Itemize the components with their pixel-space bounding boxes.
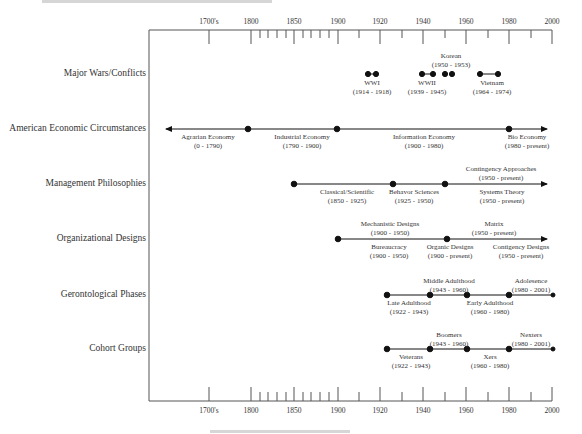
period-label-mechanistic: Mechanistic Designs(1900 - 1950)	[361, 220, 420, 237]
period-label-behavior: Behavor Sciences(1925 - 1950)	[389, 188, 439, 205]
period-label-systems: Systems Theory(1950 - present)	[479, 188, 524, 205]
cohort-label-nexters: Nexters(1980 - 2001)	[512, 331, 551, 348]
phase-label-early: Early Adulthood(1960 - 1980)	[467, 299, 513, 316]
top-axis-ticks	[209, 30, 552, 44]
axis-tick-label: 1920	[373, 17, 388, 26]
axis-tick-label: 1800	[244, 17, 259, 26]
axis-tick-label: 1960	[459, 406, 474, 415]
cohort-label-xers: Xers(1960 - 1980)	[471, 353, 510, 370]
axis-tick-label: 1980	[502, 17, 517, 26]
economy-row	[166, 126, 547, 132]
axis-tick-label: 1980	[502, 406, 517, 415]
event-label-vietnam: Vietnam(1964 - 1974)	[473, 79, 512, 96]
bottom-axis-ticks	[209, 387, 552, 401]
phase-label-late: Late Adulthood(1922 - 1943)	[387, 299, 431, 316]
axis-tick-label: 1900	[331, 17, 346, 26]
row-label-wars: Major Wars/Conflicts	[64, 68, 146, 78]
period-label-organic: Organic Designs(1900 - present)	[427, 243, 474, 260]
axis-tick-label: 1850	[287, 17, 302, 26]
axis-tick-label: 1940	[416, 406, 431, 415]
row-label-gerontological: Gerontological Phases	[61, 289, 146, 299]
cohort-label-veterans: Veterans(1922 - 1943)	[392, 353, 431, 370]
axis-tick-label: 1900	[331, 406, 346, 415]
org-designs-row	[335, 236, 547, 242]
timeline-diagram: 1700's18001850190019201940196019802000 1…	[0, 0, 582, 434]
row-label-cohort: Cohort Groups	[89, 343, 146, 353]
axis-tick-label: 1960	[459, 17, 474, 26]
management-row	[291, 181, 547, 187]
axis-tick-label: 2000	[545, 406, 560, 415]
event-label-korean: Korean(1950 - 1953)	[432, 52, 471, 69]
axis-tick-label: 2000	[545, 17, 560, 26]
axis-tick-label: 1800	[244, 406, 259, 415]
axis-tick-label: 1850	[287, 406, 302, 415]
row-label-economy: American Economic Circumstances	[9, 123, 146, 133]
period-label-bureaucracy: Bureaucracy(1900 - 1950)	[370, 243, 409, 260]
period-label-matrix: Matrix(1950 - present)	[472, 220, 517, 237]
period-label-classical: Classical/Scientific(1850 - 1925)	[320, 188, 374, 205]
row-label-org-designs: Organizational Designs	[57, 233, 146, 243]
period-label-contigency-designs: Contigency Designs(1950 - present)	[493, 243, 550, 260]
phase-label-adolesence: Adolesence(1980 - 2001)	[512, 277, 551, 294]
event-label-wwi: WWI(1914 - 1918)	[353, 79, 392, 96]
event-label-wwii: WWII(1939 - 1945)	[408, 79, 447, 96]
period-label-agrarian: Agrarian Economy(0 - 1790)	[181, 133, 234, 150]
period-label-industrial: Industrial Economy(1790 - 1900)	[274, 133, 329, 150]
axis-tick-label: 1940	[416, 17, 431, 26]
cohort-label-boomers: Boomers(1943 - 1960)	[430, 331, 469, 348]
phase-label-middle: Middle Adulthood(1943 - 1960)	[423, 277, 475, 294]
period-label-contingency: Contingency Approaches(1950 - present)	[466, 165, 537, 182]
axis-tick-label: 1920	[373, 406, 388, 415]
axis-tick-label: 1700's	[199, 17, 218, 26]
axis-tick-label: 1700's	[199, 406, 218, 415]
period-label-bio: Bio Economy(1980 - present)	[505, 133, 550, 150]
row-label-management: Management Philosophies	[45, 178, 146, 188]
period-label-information: Information Economy(1900 - 1980)	[393, 133, 455, 150]
wars-row	[365, 71, 500, 76]
